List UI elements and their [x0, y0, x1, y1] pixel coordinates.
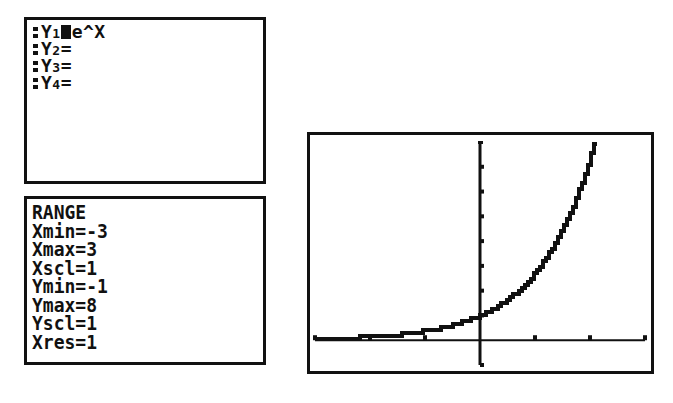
colon-icon: [33, 42, 39, 56]
function-curve: [315, 144, 597, 339]
x-tick: [533, 335, 537, 340]
y-tick: [480, 165, 484, 169]
colon-icon: [33, 76, 39, 90]
y-editor-screen: Y1e^X Y2= Y3= Y4=: [24, 17, 266, 184]
y4-row[interactable]: Y4=: [33, 74, 72, 93]
selected-equals-icon: [61, 25, 71, 39]
x-tick: [588, 335, 592, 340]
y-tick: [480, 239, 484, 243]
y-tick: [480, 289, 484, 293]
graph-screen: [307, 132, 654, 374]
y1-expression[interactable]: e^X: [72, 21, 106, 42]
y-tick: [480, 190, 484, 194]
colon-icon: [33, 59, 39, 73]
y-tick: [480, 214, 484, 218]
colon-icon: [33, 25, 39, 39]
range-screen: RANGE Xmin=-3 Xmax=3 Xscl=1 Ymin=-1 Ymax…: [24, 196, 266, 365]
range-xres[interactable]: Xres=1: [32, 333, 97, 351]
y-tick: [480, 363, 484, 367]
graph-plot: [310, 135, 651, 371]
x-tick: [423, 335, 427, 340]
x-tick: [643, 335, 647, 340]
y-tick: [480, 264, 484, 268]
